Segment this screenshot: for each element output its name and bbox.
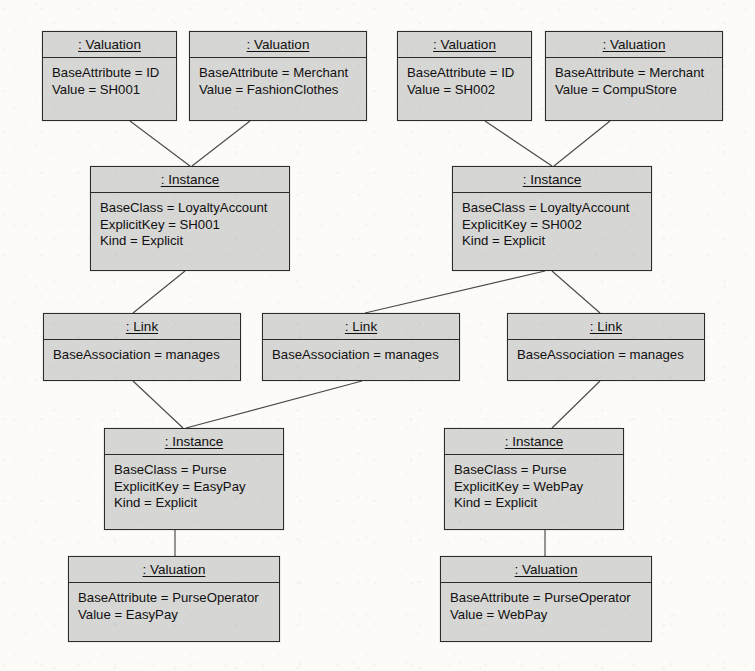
connector-val-id-sh002-to-inst-loyaltyaccount-sh002: [485, 121, 552, 166]
node-val-purseoperator-webpay[interactable]: : ValuationBaseAttribute = PurseOperator…: [440, 556, 652, 642]
node-link-manages-3[interactable]: : LinkBaseAssociation = manages: [507, 313, 705, 381]
node-attributes: BaseClass = PurseExplicitKey = EasyPayKi…: [105, 455, 283, 520]
node-attribute-row: ExplicitKey = SH001: [100, 217, 280, 234]
node-header: : Instance: [453, 167, 651, 193]
node-attribute-row: Kind = Explicit: [454, 495, 614, 512]
node-attributes: BaseAttribute = MerchantValue = CompuSto…: [546, 58, 722, 106]
node-header-label: : Valuation: [433, 37, 496, 52]
node-header-label: : Valuation: [143, 562, 206, 577]
connector-inst-loyaltyaccount-sh001-to-link-manages-1: [133, 271, 185, 313]
node-header-label: : Link: [590, 319, 622, 334]
node-attributes: BaseAttribute = IDValue = SH001: [43, 58, 176, 106]
node-header: : Link: [44, 314, 240, 340]
node-attribute-row: Kind = Explicit: [100, 233, 280, 250]
node-attribute-row: BaseAttribute = Merchant: [555, 65, 713, 82]
connector-inst-loyaltyaccount-sh002-to-link-manages-3: [552, 271, 600, 313]
node-attribute-row: BaseClass = LoyaltyAccount: [462, 200, 642, 217]
connector-link-manages-3-to-inst-purse-webpay: [552, 381, 600, 428]
node-header: : Instance: [445, 429, 623, 455]
node-attributes: BaseClass = LoyaltyAccountExplicitKey = …: [91, 193, 289, 258]
node-inst-purse-easypay[interactable]: : InstanceBaseClass = PurseExplicitKey =…: [104, 428, 284, 530]
node-header-label: : Valuation: [247, 37, 310, 52]
node-link-manages-2[interactable]: : LinkBaseAssociation = manages: [262, 313, 460, 381]
node-attributes: BaseClass = LoyaltyAccountExplicitKey = …: [453, 193, 651, 258]
node-attribute-row: BaseAttribute = PurseOperator: [78, 590, 270, 607]
node-val-purseoperator-easypay[interactable]: : ValuationBaseAttribute = PurseOperator…: [68, 556, 280, 642]
node-attribute-row: BaseAssociation = manages: [517, 347, 695, 364]
node-header-label: : Valuation: [515, 562, 578, 577]
node-inst-purse-webpay[interactable]: : InstanceBaseClass = PurseExplicitKey =…: [444, 428, 624, 530]
node-attributes: BaseAttribute = PurseOperatorValue = Web…: [441, 583, 651, 631]
node-header-label: : Link: [126, 319, 158, 334]
node-val-id-sh001[interactable]: : ValuationBaseAttribute = IDValue = SH0…: [42, 31, 177, 121]
node-attributes: BaseAttribute = PurseOperatorValue = Eas…: [69, 583, 279, 631]
uml-object-diagram-canvas: : ValuationBaseAttribute = IDValue = SH0…: [0, 0, 755, 671]
node-attribute-row: ExplicitKey = WebPay: [454, 479, 614, 496]
node-attribute-row: Value = CompuStore: [555, 82, 713, 99]
node-attribute-row: BaseAssociation = manages: [272, 347, 450, 364]
node-header: : Link: [508, 314, 704, 340]
node-header: : Valuation: [441, 557, 651, 583]
node-attribute-row: BaseAssociation = manages: [53, 347, 231, 364]
node-attributes: BaseAttribute = MerchantValue = FashionC…: [190, 58, 366, 106]
node-inst-loyaltyaccount-sh001[interactable]: : InstanceBaseClass = LoyaltyAccountExpl…: [90, 166, 290, 271]
node-attribute-row: Kind = Explicit: [462, 233, 642, 250]
node-attribute-row: Kind = Explicit: [114, 495, 274, 512]
node-val-id-sh002[interactable]: : ValuationBaseAttribute = IDValue = SH0…: [397, 31, 532, 121]
node-attribute-row: ExplicitKey = SH002: [462, 217, 642, 234]
node-header: : Instance: [91, 167, 289, 193]
node-header: : Instance: [105, 429, 283, 455]
node-header: : Valuation: [69, 557, 279, 583]
node-attribute-row: Value = FashionClothes: [199, 82, 357, 99]
node-attribute-row: BaseAttribute = PurseOperator: [450, 590, 642, 607]
node-val-merchant-fashionclothes[interactable]: : ValuationBaseAttribute = MerchantValue…: [189, 31, 367, 121]
node-attribute-row: BaseAttribute = ID: [407, 65, 522, 82]
node-attribute-row: Value = WebPay: [450, 607, 642, 624]
node-attributes: BaseClass = PurseExplicitKey = WebPayKin…: [445, 455, 623, 520]
node-inst-loyaltyaccount-sh002[interactable]: : InstanceBaseClass = LoyaltyAccountExpl…: [452, 166, 652, 271]
node-header-label: : Instance: [523, 172, 582, 187]
connector-val-merchant-fashionclothes-to-inst-loyaltyaccount-sh001: [192, 121, 250, 166]
node-header-label: : Valuation: [78, 37, 141, 52]
node-header: : Valuation: [398, 32, 531, 58]
node-header-label: : Instance: [165, 434, 224, 449]
connector-link-manages-1-to-inst-purse-easypay: [133, 381, 183, 428]
node-attribute-row: BaseAttribute = ID: [52, 65, 167, 82]
connector-val-id-sh001-to-inst-loyaltyaccount-sh001: [130, 121, 190, 166]
node-header: : Valuation: [43, 32, 176, 58]
node-attributes: BaseAssociation = manages: [508, 340, 704, 372]
node-val-merchant-compustore[interactable]: : ValuationBaseAttribute = MerchantValue…: [545, 31, 723, 121]
node-header-label: : Link: [345, 319, 377, 334]
connector-inst-loyaltyaccount-sh002-to-link-manages-2: [365, 271, 545, 313]
node-attribute-row: BaseAttribute = Merchant: [199, 65, 357, 82]
node-header: : Link: [263, 314, 459, 340]
node-attribute-row: BaseClass = Purse: [454, 462, 614, 479]
node-attribute-row: ExplicitKey = EasyPay: [114, 479, 274, 496]
node-header: : Valuation: [546, 32, 722, 58]
node-attribute-row: BaseClass = Purse: [114, 462, 274, 479]
node-attribute-row: Value = SH002: [407, 82, 522, 99]
node-header-label: : Instance: [161, 172, 220, 187]
node-link-manages-1[interactable]: : LinkBaseAssociation = manages: [43, 313, 241, 381]
node-attributes: BaseAssociation = manages: [44, 340, 240, 372]
node-attribute-row: BaseClass = LoyaltyAccount: [100, 200, 280, 217]
connector-link-manages-2-to-inst-purse-easypay: [186, 381, 362, 428]
node-attributes: BaseAttribute = IDValue = SH002: [398, 58, 531, 106]
node-header-label: : Instance: [505, 434, 564, 449]
connector-val-merchant-compustore-to-inst-loyaltyaccount-sh002: [554, 121, 610, 166]
node-attributes: BaseAssociation = manages: [263, 340, 459, 372]
node-header: : Valuation: [190, 32, 366, 58]
node-attribute-row: Value = EasyPay: [78, 607, 270, 624]
node-attribute-row: Value = SH001: [52, 82, 167, 99]
node-header-label: : Valuation: [603, 37, 666, 52]
